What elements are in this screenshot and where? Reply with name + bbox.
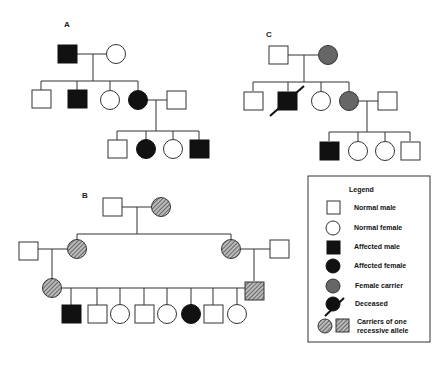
legend-normal-male-icon	[327, 201, 340, 214]
female-carrier-symbol	[319, 46, 338, 65]
carrier-female-symbol	[43, 279, 62, 298]
normal-male-symbol	[269, 46, 288, 64]
pedigree-c-label: C	[266, 30, 272, 39]
affected-female-symbol	[137, 140, 156, 159]
affected-female-symbol	[182, 305, 201, 324]
normal-female-symbol	[228, 305, 247, 324]
normal-male-symbol	[103, 198, 122, 216]
normal-male-symbol	[108, 140, 127, 158]
legend-female-carrier-icon	[326, 279, 340, 293]
legend-title: Legend	[349, 186, 374, 194]
legend-label-carriers-line2: recessive allele	[357, 327, 408, 334]
legend: Legend Normal male Normal female Affecte…	[308, 176, 430, 342]
normal-male-symbol	[244, 92, 263, 110]
carrier-male-symbol	[245, 282, 264, 300]
normal-male-symbol	[401, 142, 420, 160]
legend-carrier-circle-icon	[318, 319, 332, 333]
normal-female-symbol	[349, 142, 368, 161]
carrier-female-symbol	[222, 240, 241, 259]
carrier-female-symbol	[68, 240, 87, 259]
affected-male-symbol	[58, 45, 77, 63]
normal-female-symbol	[101, 91, 120, 110]
legend-normal-female-icon	[326, 221, 340, 235]
legend-affected-male-icon	[327, 241, 340, 254]
pedigree-b-label: B	[82, 191, 88, 200]
affected-male-symbol	[320, 142, 339, 160]
legend-label-affected-female: Affected female	[354, 262, 406, 269]
pedigree-c: C	[244, 30, 420, 161]
normal-male-symbol	[378, 92, 397, 110]
normal-male-symbol	[135, 305, 154, 323]
normal-male-symbol	[204, 305, 223, 323]
affected-female-symbol	[129, 91, 148, 110]
legend-affected-female-icon	[326, 259, 340, 273]
legend-label-deceased: Deceased	[355, 300, 388, 307]
normal-female-symbol	[376, 142, 395, 161]
legend-carrier-square-icon	[336, 319, 349, 332]
normal-female-symbol	[111, 305, 130, 324]
normal-male-symbol	[19, 242, 38, 260]
pedigree-b: B	[19, 191, 289, 324]
carrier-female-symbol	[152, 198, 171, 217]
affected-male-symbol	[68, 90, 87, 108]
affected-male-symbol	[190, 140, 209, 158]
normal-male-symbol	[270, 240, 289, 258]
legend-label-affected-male: Affected male	[354, 243, 400, 250]
normal-female-symbol	[107, 45, 126, 64]
normal-female-symbol	[164, 140, 183, 159]
pedigree-a: A	[32, 20, 209, 159]
legend-label-normal-female: Normal female	[354, 224, 402, 231]
deceased-slash	[270, 86, 304, 116]
affected-male-symbol	[62, 305, 81, 323]
legend-label-carriers-line1: Carriers of one	[357, 318, 407, 325]
normal-female-symbol	[158, 305, 177, 324]
normal-male-symbol	[88, 305, 107, 323]
legend-label-female-carrier: Female carrier	[355, 282, 403, 289]
pedigree-a-label: A	[64, 20, 70, 29]
legend-label-normal-male: Normal male	[354, 204, 396, 211]
normal-male-symbol	[32, 90, 51, 108]
normal-male-symbol	[167, 91, 186, 109]
female-carrier-symbol	[340, 92, 359, 111]
pedigree-diagram: A C	[0, 0, 448, 367]
normal-female-symbol	[312, 92, 331, 111]
